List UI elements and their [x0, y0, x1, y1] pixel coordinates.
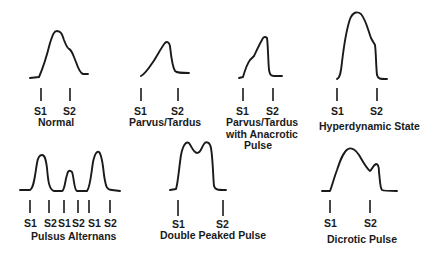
hyperdynamic-s2-label: S2: [370, 106, 383, 117]
dicrotic-s2-label: S2: [364, 218, 377, 229]
parvus-tardus-anacrotic-group: [239, 37, 282, 101]
double-peaked-title: Double Peaked Pulse: [160, 230, 266, 242]
anacrotic-title-line-3: Pulse: [226, 140, 290, 152]
double-peaked-group: [170, 142, 226, 216]
normal-waveform: [30, 31, 88, 78]
dicrotic-s1-label: S1: [324, 218, 337, 229]
hyperdynamic-s1-label: S1: [331, 106, 344, 117]
pulsus-alternans-waveform: [20, 152, 120, 191]
dicrotic-title: Dicrotic Pulse: [327, 234, 397, 246]
hyperdynamic-group: [337, 12, 387, 101]
pa-s1-label-3: S1: [88, 218, 101, 229]
parvus-tardus-waveform: [141, 42, 189, 76]
pa-s2-label-1: S2: [44, 218, 57, 229]
pa-s2-label-3: S2: [104, 218, 117, 229]
parvus-tardus-title: Parvus/Tardus: [129, 117, 201, 129]
hyperdynamic-waveform: [337, 12, 387, 79]
pa-s1-label-2: S1: [58, 218, 71, 229]
dicrotic-waveform: [322, 148, 397, 191]
normal-pulse-group: [30, 31, 88, 101]
pa-s2-label-2: S2: [72, 218, 85, 229]
anacrotic-title: Parvus/Tardus with Anacrotic Pulse: [226, 117, 290, 152]
parvus-tardus-anacrotic-waveform: [239, 37, 282, 78]
hyperdynamic-title: Hyperdynamic State: [319, 121, 420, 133]
pulsus-alternans-group: [20, 152, 120, 213]
pa-s1-label-1: S1: [24, 218, 37, 229]
double-peaked-waveform: [170, 142, 226, 190]
normal-title: Normal: [38, 117, 74, 129]
anacrotic-title-line-1: Parvus/Tardus: [226, 117, 290, 129]
parvus-tardus-group: [141, 42, 189, 101]
dicrotic-group: [322, 148, 397, 213]
pulsus-alternans-title: Pulsus Alternans: [31, 231, 116, 243]
